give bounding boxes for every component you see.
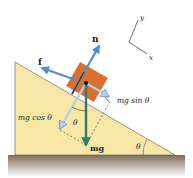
incline-diagram: n f mg sin θ mg cos θ mg θ θ x y (0, 0, 193, 178)
label-f: f (38, 57, 43, 67)
label-mg-cos: mg cos θ (18, 113, 52, 122)
label-mg-sin: mg sin θ (117, 96, 150, 105)
label-axis-x: x (149, 54, 153, 62)
friction-arrow (42, 68, 76, 80)
label-theta-inner: θ (73, 118, 78, 127)
axes-icon (129, 20, 147, 54)
label-theta-incline: θ (136, 142, 141, 151)
label-axis-y: y (139, 14, 145, 22)
label-mg: mg (90, 143, 104, 153)
center-of-mass (84, 81, 88, 85)
ground (8, 155, 185, 177)
label-n: n (92, 34, 99, 44)
